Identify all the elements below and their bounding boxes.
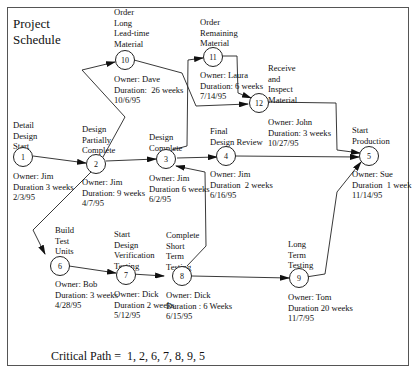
node-4-label: Final Design Review: [210, 126, 263, 147]
node-1[interactable]: 1: [13, 147, 33, 167]
node-9-label: Long Term Testing: [288, 239, 313, 271]
node-10-info: Owner: Dave Duration: 26 weeks 10/6/95: [114, 74, 183, 106]
node-11-label: Order Remaining Material: [200, 17, 238, 49]
critical-path-caption: Critical Path = 1, 2, 6, 7, 8, 9, 5: [51, 349, 205, 363]
node-10[interactable]: 10: [115, 50, 135, 70]
edge-8-9: [192, 276, 289, 278]
node-2-label: Design Partially Complete: [82, 124, 115, 156]
node-7[interactable]: 7: [116, 265, 136, 285]
node-5-label: Start Production: [352, 125, 390, 146]
node-5[interactable]: 5: [359, 146, 379, 166]
edge-3-4: [177, 157, 217, 158]
node-3[interactable]: 3: [156, 149, 176, 169]
node-11[interactable]: 11: [203, 47, 223, 67]
node-6-label: Build Test Units: [55, 225, 74, 257]
node-12[interactable]: 12: [249, 93, 269, 113]
node-1-info: Owner: Jim Duration 3 weeks 2/3/95: [13, 171, 74, 203]
node-9-info: Owner: Tom Duration 20 weeks 11/7/95: [288, 292, 353, 324]
node-7-label: Start Design Verification Testing: [114, 229, 155, 271]
node-2[interactable]: 2: [86, 154, 106, 174]
node-4-info: Owner: Jim Duration 2 weeks 6/16/95: [210, 169, 273, 201]
node-5-info: Owner: Sue Duration 1 week 11/14/95: [352, 169, 411, 201]
edge-2-3: [106, 159, 156, 161]
edge-6-7: [69, 266, 116, 273]
node-12-label: Receive and Inspect Material: [268, 63, 297, 105]
node-9[interactable]: 9: [289, 268, 309, 288]
node-3-info: Owner: Jim Duration 6 weeks 6/2/95: [149, 173, 210, 205]
edge-4-5: [235, 156, 359, 157]
page-title: Project Schedule: [13, 16, 61, 48]
node-10-label: Order Long Lead-time Material: [114, 7, 149, 49]
node-6[interactable]: 6: [50, 256, 70, 276]
edge-7-8: [132, 274, 164, 276]
edge-1-2: [33, 156, 86, 163]
node-4[interactable]: 4: [216, 146, 236, 166]
node-6-info: Owner: Bob Duration: 3 weeks 4/28/95: [55, 279, 118, 311]
node-12-info: Owner: John Duration: 3 weeks 10/27/95: [268, 117, 331, 149]
node-8-info: Owner: Dick Duration : 6 Weeks 6/15/95: [166, 290, 232, 322]
node-8[interactable]: 8: [172, 266, 192, 286]
node-2-info: Owner: Jim Duration: 9 weeks 4/7/95: [82, 177, 145, 209]
